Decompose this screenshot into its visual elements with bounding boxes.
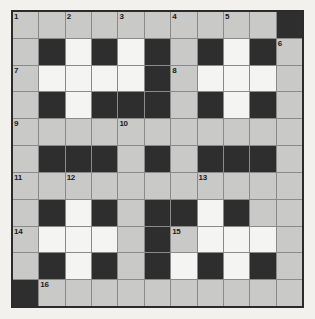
crossword-cell[interactable]: 5 — [224, 12, 249, 38]
crossword-cell[interactable] — [145, 280, 170, 306]
crossword-cell[interactable] — [118, 39, 143, 65]
crossword-cell[interactable] — [145, 119, 170, 145]
crossword-cell[interactable] — [118, 200, 143, 226]
crossword-cell[interactable] — [250, 227, 275, 253]
crossword-cell[interactable] — [277, 200, 302, 226]
crossword-cell[interactable]: 8 — [171, 66, 196, 92]
crossword-cell[interactable] — [198, 12, 223, 38]
crossword-cell[interactable] — [66, 92, 91, 118]
crossword-cell[interactable] — [224, 280, 249, 306]
crossword-cell[interactable]: 4 — [171, 12, 196, 38]
crossword-cell[interactable] — [224, 253, 249, 279]
crossword-cell[interactable] — [171, 280, 196, 306]
crossword-grid[interactable]: 12345678910111213141516 — [11, 10, 304, 308]
crossword-cell[interactable] — [39, 12, 64, 38]
crossword-cell[interactable] — [198, 227, 223, 253]
crossword-block-cell — [145, 253, 170, 279]
crossword-cell[interactable]: 11 — [13, 173, 38, 199]
crossword-cell[interactable] — [277, 66, 302, 92]
crossword-cell[interactable] — [66, 119, 91, 145]
crossword-cell[interactable] — [145, 173, 170, 199]
crossword-cell[interactable] — [171, 92, 196, 118]
crossword-cell[interactable]: 6 — [277, 39, 302, 65]
crossword-cell[interactable] — [198, 280, 223, 306]
crossword-cell[interactable] — [118, 173, 143, 199]
crossword-cell[interactable] — [66, 227, 91, 253]
crossword-cell[interactable] — [13, 39, 38, 65]
crossword-cell[interactable] — [171, 173, 196, 199]
crossword-cell[interactable] — [118, 280, 143, 306]
crossword-cell[interactable] — [66, 200, 91, 226]
crossword-cell[interactable] — [224, 227, 249, 253]
crossword-cell[interactable] — [277, 92, 302, 118]
crossword-cell[interactable] — [224, 119, 249, 145]
crossword-cell[interactable] — [277, 173, 302, 199]
crossword-block-cell — [250, 92, 275, 118]
clue-number: 9 — [14, 119, 18, 128]
crossword-cell[interactable] — [171, 119, 196, 145]
crossword-cell[interactable] — [171, 146, 196, 172]
crossword-cell[interactable] — [277, 119, 302, 145]
crossword-cell[interactable] — [118, 146, 143, 172]
crossword-cell[interactable] — [277, 146, 302, 172]
crossword-cell[interactable] — [250, 12, 275, 38]
crossword-cell[interactable]: 7 — [13, 66, 38, 92]
crossword-cell[interactable] — [66, 39, 91, 65]
crossword-block-cell — [66, 146, 91, 172]
crossword-cell[interactable]: 3 — [118, 12, 143, 38]
crossword-block-cell — [92, 146, 117, 172]
crossword-cell[interactable] — [198, 119, 223, 145]
crossword-cell[interactable] — [250, 66, 275, 92]
crossword-cell[interactable] — [39, 66, 64, 92]
crossword-block-cell — [145, 92, 170, 118]
crossword-cell[interactable] — [277, 253, 302, 279]
crossword-cell[interactable]: 14 — [13, 227, 38, 253]
crossword-cell[interactable] — [145, 12, 170, 38]
crossword-cell[interactable] — [171, 39, 196, 65]
crossword-cell[interactable]: 13 — [198, 173, 223, 199]
crossword-cell[interactable] — [92, 227, 117, 253]
crossword-cell[interactable] — [118, 227, 143, 253]
crossword-cell[interactable] — [92, 12, 117, 38]
crossword-cell[interactable] — [39, 173, 64, 199]
crossword-cell[interactable] — [118, 66, 143, 92]
crossword-cell[interactable] — [171, 253, 196, 279]
crossword-cell[interactable] — [92, 280, 117, 306]
crossword-cell[interactable] — [92, 173, 117, 199]
crossword-cell[interactable] — [39, 227, 64, 253]
crossword-cell[interactable] — [13, 253, 38, 279]
crossword-block-cell — [39, 146, 64, 172]
crossword-cell[interactable]: 2 — [66, 12, 91, 38]
crossword-cell[interactable]: 9 — [13, 119, 38, 145]
crossword-cell[interactable] — [250, 200, 275, 226]
crossword-cell[interactable] — [198, 200, 223, 226]
crossword-cell[interactable] — [118, 253, 143, 279]
crossword-cell[interactable] — [224, 173, 249, 199]
crossword-cell[interactable]: 15 — [171, 227, 196, 253]
crossword-cell[interactable]: 12 — [66, 173, 91, 199]
crossword-cell[interactable]: 16 — [39, 280, 64, 306]
crossword-cell[interactable] — [13, 200, 38, 226]
crossword-cell[interactable] — [92, 119, 117, 145]
crossword-cell[interactable] — [250, 173, 275, 199]
crossword-cell[interactable] — [13, 92, 38, 118]
clue-number: 8 — [172, 66, 176, 75]
crossword-cell[interactable] — [92, 66, 117, 92]
crossword-cell[interactable] — [66, 280, 91, 306]
crossword-cell[interactable] — [277, 227, 302, 253]
crossword-cell[interactable]: 10 — [118, 119, 143, 145]
crossword-cell[interactable] — [224, 39, 249, 65]
crossword-cell[interactable] — [66, 66, 91, 92]
crossword-cell[interactable] — [250, 280, 275, 306]
crossword-cell[interactable] — [224, 66, 249, 92]
crossword-cell[interactable] — [13, 146, 38, 172]
crossword-cell[interactable] — [250, 119, 275, 145]
crossword-cell[interactable]: 1 — [13, 12, 38, 38]
crossword-block-cell — [224, 146, 249, 172]
crossword-cell[interactable] — [39, 119, 64, 145]
crossword-cell[interactable] — [224, 92, 249, 118]
crossword-cell[interactable] — [277, 280, 302, 306]
crossword-cell[interactable] — [66, 253, 91, 279]
crossword-block-cell — [145, 146, 170, 172]
crossword-cell[interactable] — [198, 66, 223, 92]
